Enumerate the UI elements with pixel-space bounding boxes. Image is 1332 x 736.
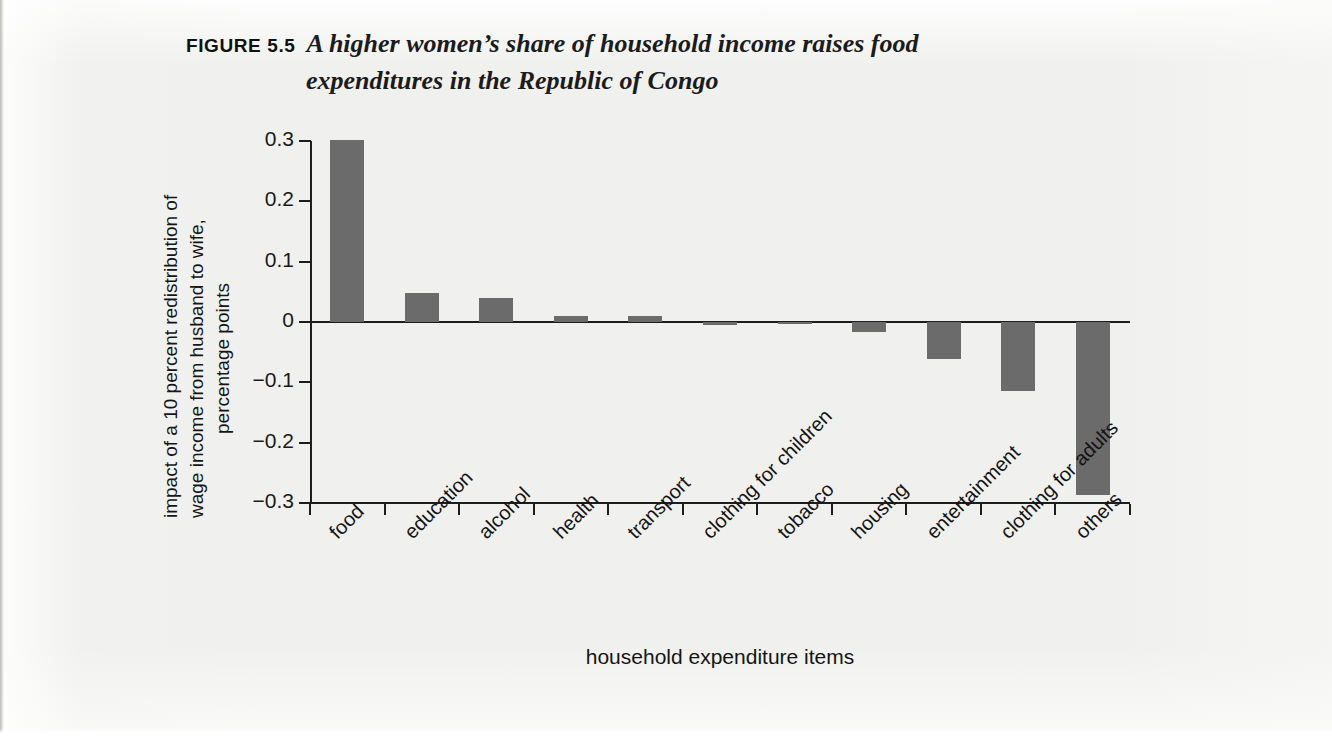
bar: [479, 298, 513, 322]
bar: [628, 316, 662, 322]
y-axis-title: wage income from husband to wife, percen…: [196, 120, 256, 520]
x-axis-category-label: housing: [847, 478, 913, 544]
bar: [703, 322, 737, 325]
bar: [330, 140, 364, 322]
y-axis-tick: [299, 200, 311, 202]
y-axis-tick: [299, 381, 311, 383]
y-axis-tick: [299, 261, 311, 263]
x-axis-category-label: transport: [623, 472, 695, 544]
bar: [554, 316, 588, 322]
bar: [852, 322, 886, 332]
y-axis-tick: [299, 321, 311, 323]
x-axis-category-label: alcohol: [474, 483, 535, 544]
bar-chart: 0.30.20.10−0.1−0.2−0.3 foodeducationalco…: [0, 0, 1332, 736]
x-axis-tick: [1129, 504, 1131, 515]
x-axis-category-label: food: [325, 500, 369, 544]
bar: [1001, 322, 1035, 391]
x-axis-category-label: education: [400, 466, 478, 544]
figure-page: FIGURE 5.5A higher women’s share of hous…: [0, 0, 1332, 736]
x-axis-category-label: tobacco: [772, 478, 838, 544]
x-axis-category-label: others: [1071, 488, 1127, 544]
x-axis-tick: [607, 504, 609, 515]
x-axis-tick: [384, 504, 386, 515]
y-axis-title-line-b: percentage points: [212, 283, 234, 434]
x-axis-tick: [980, 504, 982, 515]
x-axis-tick: [458, 504, 460, 515]
x-axis-tick: [682, 504, 684, 515]
x-axis-category-label: clothing for children: [698, 405, 837, 544]
x-axis-category-label: health: [549, 489, 604, 544]
y-axis-title-line-a: wage income from husband to wife,: [186, 219, 208, 518]
x-axis-tick: [756, 504, 758, 515]
y-axis-tick: [299, 442, 311, 444]
x-axis-tick: [1054, 504, 1056, 515]
x-axis-tick: [905, 504, 907, 515]
bar: [927, 322, 961, 359]
x-axis-tick: [533, 504, 535, 515]
y-axis-title-line-c: impact of a 10 percent redistribution of: [160, 195, 182, 518]
y-axis-tick: [299, 140, 311, 142]
x-axis-tick: [831, 504, 833, 515]
x-axis-title: household expenditure items: [310, 645, 1130, 669]
bar: [778, 322, 812, 324]
bar: [405, 293, 439, 322]
x-axis-tick: [309, 504, 311, 515]
